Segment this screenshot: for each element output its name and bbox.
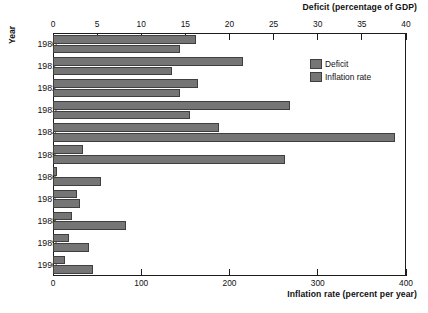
y-axis-title: Year (7, 18, 17, 52)
bar-inflation-rate-1986 (53, 177, 101, 186)
legend-label-deficit: Deficit (325, 59, 348, 69)
legend-label-inflation-rate: Inflation rate (325, 72, 371, 82)
tick-top-40 (406, 33, 407, 40)
legend-swatch-deficit (310, 59, 322, 69)
bar-deficit-1980 (53, 35, 196, 44)
tick-top-35 (361, 33, 362, 40)
tick-label-top-10: 10 (137, 19, 146, 29)
tick-bottom-200 (229, 269, 230, 276)
bottom-axis-title: Inflation rate (percent per year) (287, 289, 417, 299)
tick-bottom-400 (406, 269, 407, 276)
bar-inflation-rate-1989 (53, 243, 89, 252)
tick-label-top-35: 35 (357, 19, 366, 29)
tick-top-20 (229, 33, 230, 40)
tick-label-bottom-300: 300 (311, 278, 325, 288)
bar-inflation-rate-1988 (53, 221, 126, 230)
bar-deficit-1986 (53, 167, 57, 176)
bar-inflation-rate-1987 (53, 199, 80, 208)
chart-container: Deficit (percentage of GDP) Year 0510152… (0, 0, 428, 313)
top-axis-title: Deficit (percentage of GDP) (303, 2, 417, 12)
legend: Deficit Inflation rate (310, 58, 371, 84)
tick-label-top-25: 25 (269, 19, 278, 29)
tick-label-bottom-100: 100 (134, 278, 148, 288)
tick-label-bottom-200: 200 (223, 278, 237, 288)
legend-item-inflation-rate: Inflation rate (310, 71, 371, 82)
tick-top-25 (273, 33, 274, 40)
bar-inflation-rate-1984 (53, 133, 395, 142)
tick-label-top-5: 5 (95, 19, 100, 29)
bar-inflation-rate-1983 (53, 111, 190, 120)
legend-swatch-inflation-rate (310, 72, 322, 82)
tick-label-top-15: 15 (181, 19, 190, 29)
bar-inflation-rate-1990 (53, 265, 93, 274)
tick-label-top-20: 20 (225, 19, 234, 29)
bar-deficit-1987 (53, 190, 77, 199)
tick-label-bottom-400: 400 (399, 278, 413, 288)
tick-label-top-0: 0 (51, 19, 56, 29)
tick-bottom-100 (141, 269, 142, 276)
bar-deficit-1984 (53, 123, 219, 132)
bar-deficit-1982 (53, 79, 198, 88)
bar-inflation-rate-1982 (53, 89, 180, 98)
bar-deficit-1990 (53, 256, 65, 265)
bar-deficit-1985 (53, 145, 83, 154)
bar-deficit-1989 (53, 234, 69, 243)
tick-top-30 (317, 33, 318, 40)
bar-deficit-1983 (53, 101, 290, 110)
tick-label-bottom-0: 0 (51, 278, 56, 288)
bar-inflation-rate-1985 (53, 155, 285, 164)
tick-label-top-30: 30 (313, 19, 322, 29)
bar-inflation-rate-1980 (53, 45, 180, 54)
tick-label-top-40: 40 (401, 19, 410, 29)
bar-deficit-1988 (53, 212, 72, 221)
bar-inflation-rate-1981 (53, 67, 172, 76)
bar-deficit-1981 (53, 57, 243, 66)
legend-item-deficit: Deficit (310, 58, 371, 69)
tick-bottom-300 (317, 269, 318, 276)
